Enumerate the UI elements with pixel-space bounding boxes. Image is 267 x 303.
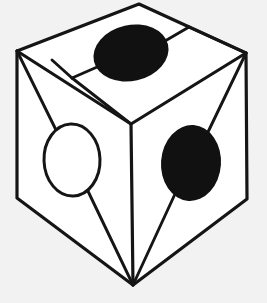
edge-center-to-bottom-apex [131,124,133,285]
cube-figure-svg [0,0,267,303]
left-face-light-ellipse [43,123,101,197]
cube-figure-canvas [0,0,267,303]
